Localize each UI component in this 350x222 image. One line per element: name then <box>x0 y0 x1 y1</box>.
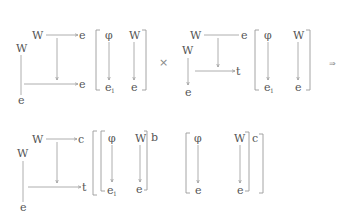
left-source-label: W <box>17 147 29 160</box>
right-bracket <box>142 30 146 90</box>
left-source-label: W <box>182 44 194 57</box>
bracket-matrix: φ e 1 W e <box>255 29 310 94</box>
left-source-label: W <box>16 42 28 55</box>
col1-bottom-label: e <box>195 184 202 197</box>
col1-bottom-subscript: 1 <box>111 87 115 94</box>
left-target-label: e <box>18 94 25 107</box>
inner-right-bracket <box>245 132 249 191</box>
col1-bottom-subscript: 1 <box>270 87 274 94</box>
top-target-label: c <box>78 133 84 146</box>
col2-top-label: W <box>129 29 141 42</box>
bracket-matrix: φ e 1 W e <box>96 29 146 94</box>
bottom-target-label: t <box>236 65 241 78</box>
commutative-square: W e W e e <box>16 29 86 107</box>
col1-bottom-subscript: 1 <box>113 190 117 197</box>
top-target-label: e <box>241 29 248 42</box>
left-bracket <box>255 30 259 90</box>
product-operator: × <box>159 56 168 69</box>
bracket-matrix: φ e W e c <box>186 132 263 197</box>
inner-left-bracket <box>101 131 105 191</box>
outer-left-bracket <box>93 131 97 195</box>
col2-top-label: W <box>234 132 246 145</box>
commutative-square: W c W e t <box>17 133 87 214</box>
bracket-matrix: φ e 1 W e b <box>93 131 158 197</box>
diagram-top-right: W e W e t φ e 1 W e <box>182 29 310 99</box>
col1-top-label: φ <box>194 132 202 145</box>
right-bracket <box>306 30 310 90</box>
top-source-label: W <box>32 133 44 146</box>
outer-right-bracket <box>259 134 263 193</box>
bracket-label: b <box>151 131 158 144</box>
col2-bottom-label: e <box>136 183 143 196</box>
top-target-label: e <box>79 29 86 42</box>
diagram-canvas: W e W e e φ e 1 W e × W e W <box>0 0 350 222</box>
bracket-label: c <box>252 132 258 145</box>
top-source-label: W <box>190 29 202 42</box>
commutative-square: W e W e t <box>182 29 248 99</box>
diagram-bottom-left: W c W e t φ e 1 W e b <box>17 131 158 214</box>
col1-top-label: φ <box>108 132 116 145</box>
left-target-label: e <box>20 201 27 214</box>
implies-operator: ⇒ <box>329 59 336 68</box>
col1-top-label: φ <box>264 29 272 42</box>
diagram-bottom-right: φ e W e c <box>186 132 263 197</box>
top-source-label: W <box>32 29 44 42</box>
col2-bottom-label: e <box>237 184 244 197</box>
col1-top-label: φ <box>105 29 113 42</box>
col2-top-label: W <box>135 132 147 145</box>
left-bracket <box>96 30 100 90</box>
col2-top-label: W <box>293 29 305 42</box>
bottom-target-label: e <box>79 78 86 91</box>
diagram-top-left: W e W e e φ e 1 W e <box>16 29 146 107</box>
bottom-target-label: t <box>82 181 87 194</box>
left-target-label: e <box>185 86 192 99</box>
col2-bottom-label: e <box>295 81 302 94</box>
col2-bottom-label: e <box>131 81 138 94</box>
left-bracket <box>186 133 190 193</box>
